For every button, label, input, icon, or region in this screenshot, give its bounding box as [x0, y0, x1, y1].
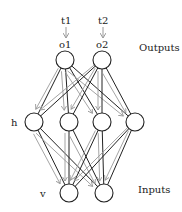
outputs-layer-label: Outputs: [139, 42, 180, 53]
target-label-t2: t2: [98, 15, 108, 26]
hidden-layer-label: h: [11, 117, 18, 128]
hidden-node: [25, 113, 43, 131]
output-node-label-o1: o1: [59, 39, 71, 50]
output-hidden-edge: [70, 68, 98, 115]
output-node: [56, 51, 74, 69]
inputs-layer-label: Inputs: [138, 184, 170, 195]
output-node-label-o2: o2: [96, 39, 108, 50]
visible-node: [60, 184, 78, 202]
target-label-t1: t1: [61, 15, 71, 26]
visible-node: [95, 184, 113, 202]
hidden-visible-gradient-arrow: [70, 130, 95, 180]
visible-layer-label: v: [39, 188, 46, 199]
neural-network-diagram: t1 t2 o1 o2 Outputs h v Inputs: [0, 0, 182, 212]
output-node: [93, 51, 111, 69]
output-hidden-edge: [38, 68, 61, 114]
hidden-visible-gradient-arrow: [34, 134, 61, 184]
output-hidden-gradient-arrow: [102, 72, 126, 113]
hidden-node: [93, 113, 111, 131]
edges-group: [34, 27, 132, 187]
hidden-visible-gradient-arrow: [74, 128, 127, 181]
hidden-node: [60, 113, 78, 131]
hidden-node: [126, 113, 144, 131]
labels-group: t1 t2 o1 o2 Outputs h v Inputs: [11, 15, 180, 199]
output-hidden-edge: [72, 66, 129, 116]
